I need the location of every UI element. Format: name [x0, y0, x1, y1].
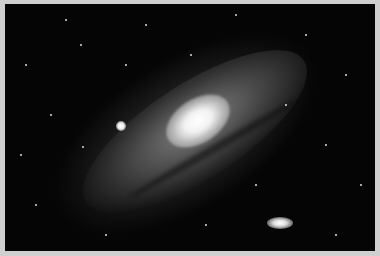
starfield: [5, 4, 375, 251]
galaxy-photo: [5, 4, 375, 251]
